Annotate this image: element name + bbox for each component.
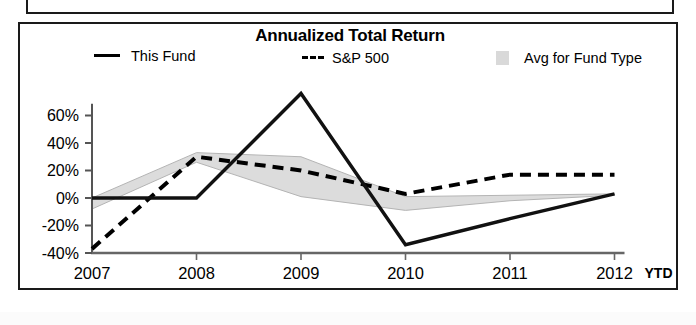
y-axis-tick-label: 40% bbox=[47, 135, 79, 152]
x-axis-tick-label: 2009 bbox=[283, 264, 320, 282]
scan-artifact-strip bbox=[0, 312, 696, 325]
y-axis-tick-label: 60% bbox=[47, 107, 79, 124]
annualized-total-return-chart-panel: Annualized Total Return This Fund S&P 50… bbox=[18, 22, 678, 290]
x-axis-tick-label: 2008 bbox=[178, 264, 215, 282]
y-axis-tick-label: 0% bbox=[56, 190, 79, 207]
x-axis-tick-label: 2010 bbox=[387, 264, 424, 282]
y-axis-tick-label: -20% bbox=[42, 217, 79, 234]
y-axis-tick-label: 20% bbox=[47, 162, 79, 179]
chart-plot-svg: 60%40%20%0%-20%-40% 20072008200920102011… bbox=[20, 24, 680, 292]
x-axis-tick-label: 2012 bbox=[596, 264, 633, 282]
y-axis-tick-labels: 60%40%20%0%-20%-40% bbox=[42, 107, 79, 262]
y-axis-ticks bbox=[85, 116, 92, 254]
x-axis-ytd-label: YTD bbox=[645, 265, 673, 281]
x-axis-tick-labels: 200720082009201020112012 bbox=[74, 264, 633, 282]
plot-area: 60%40%20%0%-20%-40% 20072008200920102011… bbox=[20, 24, 680, 292]
document-partial-box-above bbox=[26, 0, 674, 14]
y-axis-tick-label: -40% bbox=[42, 245, 79, 262]
x-axis-tick-label: 2007 bbox=[74, 264, 111, 282]
x-axis-tick-label: 2011 bbox=[492, 264, 527, 282]
